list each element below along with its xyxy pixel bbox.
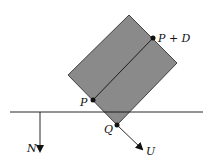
label-p: P: [79, 96, 88, 109]
point-p-plus-d: [151, 36, 156, 41]
label-u: U: [146, 145, 156, 158]
point-p: [91, 98, 96, 103]
point-q: [115, 123, 120, 128]
label-n: N: [26, 142, 37, 155]
direction-arrow-u: [117, 125, 142, 149]
label-p-plus-d: P + D: [157, 32, 191, 45]
label-q: Q: [104, 123, 113, 136]
diagram-canvas: P + D P Q N U: [0, 0, 215, 168]
